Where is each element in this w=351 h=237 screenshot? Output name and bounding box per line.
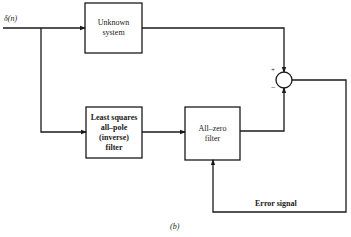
- branch-line: [41, 28, 86, 132]
- summer-minus-sign: −: [271, 83, 276, 93]
- ls-filter-line2: all–pole: [101, 123, 128, 133]
- unknown-system-label: Unknown system: [85, 3, 142, 53]
- unknown-output-line: [142, 28, 284, 72]
- allzero-output-line: [240, 88, 284, 131]
- summing-junction: [276, 72, 292, 88]
- error-signal-label: Error signal: [255, 199, 297, 209]
- all-zero-line1: All–zero: [199, 124, 227, 134]
- ls-filter-label: Least squares all–pole (inverse) filter: [86, 107, 142, 158]
- all-zero-filter-label: All–zero filter: [185, 107, 240, 160]
- figure-caption: (b): [170, 222, 179, 232]
- ls-filter-line4: filter: [106, 143, 123, 153]
- block-diagram: [0, 0, 351, 237]
- ls-filter-line1: Least squares: [91, 113, 138, 123]
- unknown-system-line2: system: [102, 28, 124, 38]
- summer-plus-sign: +: [271, 65, 275, 75]
- input-label: δ(n): [4, 14, 17, 24]
- ls-filter-line3: (inverse): [99, 133, 129, 143]
- all-zero-line2: filter: [205, 134, 221, 144]
- unknown-system-line1: Unknown: [98, 18, 130, 28]
